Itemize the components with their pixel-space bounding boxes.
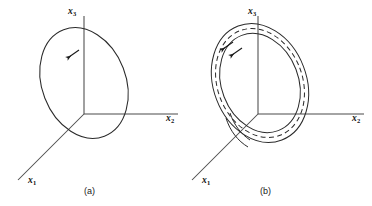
- panel-b-caption: (b): [260, 187, 271, 196]
- inner-spiral-direction-arrow: [232, 48, 242, 55]
- orbit-direction-arrow: [69, 50, 79, 57]
- axis-label-x1: x1: [28, 176, 36, 186]
- axis-label-x2: x2: [352, 114, 360, 124]
- axis-label-x1: x1: [202, 176, 210, 186]
- inner-spiral-curve: [206, 22, 314, 145]
- axis-label-x3: x3: [68, 7, 76, 17]
- axis-x1-line: [18, 114, 84, 180]
- axis-x1-line: [192, 114, 258, 180]
- axis-label-x2: x2: [166, 114, 174, 124]
- panel-b: x3 x2 x1 (b): [186, 0, 372, 206]
- outer-spiral-curve: [195, 9, 326, 156]
- panel-a: x3 x2 x1 (a): [0, 0, 186, 206]
- panel-b-drawing: [186, 0, 372, 206]
- figure-root: x3 x2 x1 (a): [0, 0, 372, 206]
- axis-label-x3: x3: [248, 7, 256, 17]
- panel-a-caption: (a): [84, 187, 95, 196]
- limit-cycle-curve: [200, 15, 319, 150]
